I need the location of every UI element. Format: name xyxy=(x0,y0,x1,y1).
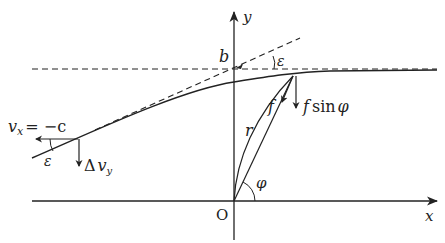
x-axis-label: x xyxy=(425,207,434,225)
radius-label: r xyxy=(245,121,254,140)
epsilon-left-label: ε xyxy=(44,153,52,169)
impact-parameter-label: b xyxy=(219,47,229,66)
deflection-diagram: y x O b ε ε vx= −c Δvy f fsinφ r φ xyxy=(0,0,445,243)
phi-arc xyxy=(243,182,255,201)
velocity-x-label: vx= −c xyxy=(8,117,66,138)
epsilon-top-label: ε xyxy=(277,53,285,69)
force-fsinphi-label: fsinφ xyxy=(302,97,350,116)
origin-label: O xyxy=(216,206,228,224)
delta-vy-label: Δvy xyxy=(84,156,113,176)
y-axis-label: y xyxy=(242,8,252,26)
tangent-dashed-line xyxy=(95,38,300,130)
phi-angle-label: φ xyxy=(256,174,267,192)
force-f-arrow xyxy=(282,76,293,102)
epsilon-arc-top xyxy=(273,56,275,69)
